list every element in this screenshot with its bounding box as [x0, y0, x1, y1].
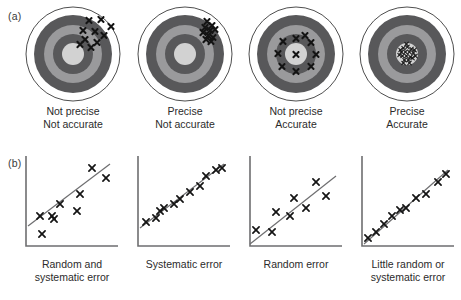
target-rings — [248, 6, 344, 102]
trend-line — [250, 176, 336, 244]
target-cell: Precise Accurate — [352, 2, 461, 142]
data-point — [213, 167, 219, 173]
caption-line-2: systematic error — [352, 271, 461, 284]
plot-canvas — [246, 154, 346, 254]
caption-line-1: Random and — [16, 258, 128, 271]
data-point — [303, 205, 309, 211]
data-point — [269, 229, 275, 235]
scatter-plot — [246, 154, 346, 254]
data-point — [287, 213, 293, 219]
plot-cell: Random and systematic error — [16, 150, 128, 300]
target-diagram — [25, 6, 121, 102]
target-rings — [137, 6, 233, 102]
target-rings — [359, 6, 455, 102]
plot-cell: Systematic error — [128, 150, 240, 300]
caption-line-2: Accurate — [352, 118, 461, 131]
target-cell: Not precise Not accurate — [18, 2, 128, 142]
caption-line-1: Precise — [352, 105, 461, 118]
data-point — [197, 183, 203, 189]
target-caption: Precise Not accurate — [130, 105, 240, 131]
target-cell: Not precise Accurate — [241, 2, 351, 142]
plot-points — [253, 179, 329, 235]
plot-canvas — [134, 154, 234, 254]
data-point — [313, 179, 319, 185]
data-point — [273, 209, 279, 215]
data-point — [89, 165, 95, 171]
plot-cell: Random error — [240, 150, 352, 300]
figure-precision-accuracy: (a) Not precise Not accurate — [0, 0, 461, 300]
caption-line-1: Not precise — [241, 105, 351, 118]
data-point — [253, 227, 259, 233]
scatter-plot — [22, 154, 122, 254]
scatter-plot — [134, 154, 234, 254]
data-point — [403, 205, 409, 211]
caption-line-2: Not accurate — [18, 118, 128, 131]
target-diagram — [137, 6, 233, 102]
data-point — [74, 208, 80, 214]
scatter-plot — [358, 154, 458, 254]
caption-line-2: systematic error — [16, 271, 128, 284]
target-caption: Precise Accurate — [352, 105, 461, 131]
plot-cell: Little random or systematic error — [352, 150, 461, 300]
plot-caption: Random and systematic error — [16, 258, 128, 284]
caption-line-2: Accurate — [241, 118, 351, 131]
plot-canvas — [358, 154, 458, 254]
target-caption: Not precise Accurate — [241, 105, 351, 131]
target-caption: Not precise Not accurate — [18, 105, 128, 131]
data-point — [389, 213, 395, 219]
plot-points — [37, 165, 109, 237]
caption-line-2: Not accurate — [130, 118, 240, 131]
target-rings — [25, 6, 121, 102]
caption-line-1: Little random or — [352, 258, 461, 271]
caption-line-1: Random error — [240, 258, 352, 271]
caption-line-1: Precise — [130, 105, 240, 118]
data-point — [423, 191, 429, 197]
data-point — [77, 191, 83, 197]
scatter-plots-row: Random and systematic error Systematic e… — [0, 150, 461, 300]
plot-points — [365, 171, 449, 241]
plot-canvas — [22, 154, 122, 254]
target-diagram — [248, 6, 344, 102]
plot-trend-line — [250, 176, 336, 244]
data-point — [291, 195, 297, 201]
caption-line-1: Not precise — [18, 105, 128, 118]
data-point — [323, 193, 329, 199]
data-point — [413, 195, 419, 201]
data-point — [39, 231, 45, 237]
plot-caption: Systematic error — [128, 258, 240, 271]
target-cell: Precise Not accurate — [130, 2, 240, 142]
caption-line-1: Systematic error — [128, 258, 240, 271]
plot-caption: Little random or systematic error — [352, 258, 461, 284]
targets-row: Not precise Not accurate Precise Not acc… — [0, 2, 461, 142]
plot-caption: Random error — [240, 258, 352, 271]
target-diagram — [359, 6, 455, 102]
data-point — [103, 175, 109, 181]
data-point — [435, 179, 441, 185]
